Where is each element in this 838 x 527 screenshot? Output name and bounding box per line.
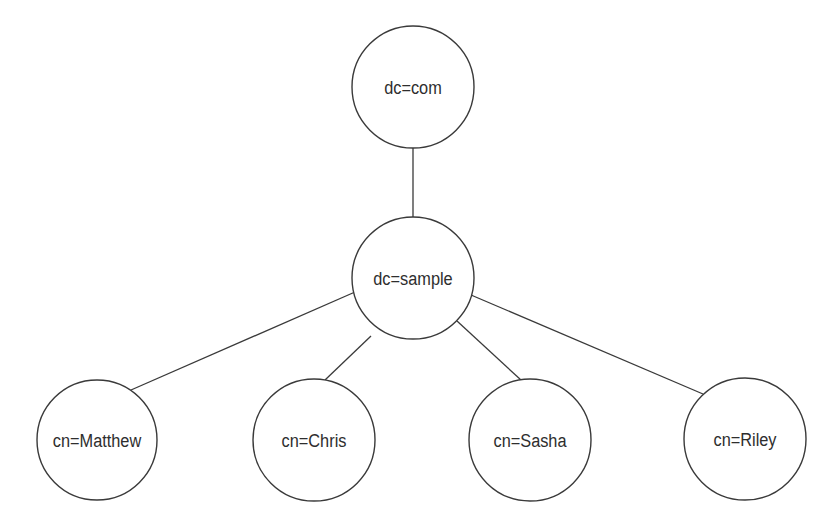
node-cn-matthew: cn=Matthew	[37, 380, 157, 500]
ldap-tree-diagram: dc=com dc=sample cn=Matthew cn=Chris cn=…	[0, 0, 838, 527]
node-label: cn=Chris	[282, 430, 347, 451]
node-dc-sample: dc=sample	[352, 217, 474, 339]
node-cn-chris: cn=Chris	[253, 379, 375, 501]
edge-sample-chris	[325, 336, 371, 380]
edge-sample-sasha	[457, 321, 521, 380]
node-label: dc=com	[384, 77, 442, 98]
edge-sample-matthew	[131, 292, 355, 390]
node-label: cn=Sasha	[493, 430, 566, 451]
node-label: cn=Matthew	[53, 430, 142, 451]
node-label: dc=sample	[373, 268, 453, 289]
node-cn-sasha: cn=Sasha	[469, 379, 591, 501]
node-dc-com: dc=com	[352, 26, 474, 148]
node-label: cn=Riley	[713, 429, 776, 450]
edge-sample-riley	[471, 295, 703, 394]
node-cn-riley: cn=Riley	[684, 378, 806, 500]
